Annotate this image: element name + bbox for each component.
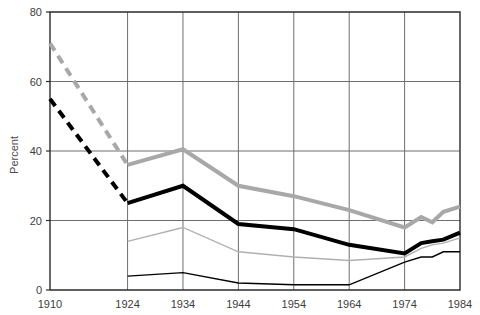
- x-tick-label: 1910: [38, 298, 62, 310]
- line-chart: 19101924193419441954196419741984 0204060…: [0, 0, 480, 315]
- y-tick-label: 80: [30, 6, 42, 18]
- y-tick-label: 20: [30, 215, 42, 227]
- x-tick-label: 1974: [392, 298, 416, 310]
- y-tick-label: 60: [30, 76, 42, 88]
- x-tick-label: 1944: [226, 298, 250, 310]
- chart-background: [0, 0, 480, 315]
- x-tick-label: 1934: [171, 298, 195, 310]
- x-tick-label: 1954: [282, 298, 306, 310]
- x-tick-label: 1964: [337, 298, 361, 310]
- x-tick-label: 1924: [115, 298, 139, 310]
- chart-container: 19101924193419441954196419741984 0204060…: [0, 0, 480, 315]
- y-tick-label: 40: [30, 145, 42, 157]
- y-axis-label: Percent: [8, 136, 20, 174]
- y-tick-label: 0: [36, 284, 42, 296]
- y-axis-title: Percent: [8, 136, 20, 174]
- x-tick-label: 1984: [448, 298, 472, 310]
